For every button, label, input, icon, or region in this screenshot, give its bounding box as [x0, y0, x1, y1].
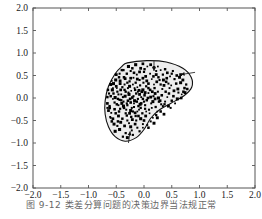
- data-point: [142, 123, 144, 125]
- data-point: [157, 96, 160, 99]
- data-point: [155, 106, 157, 108]
- data-point: [166, 96, 168, 98]
- data-point: [119, 73, 121, 75]
- data-point: [160, 69, 162, 71]
- data-point: [157, 66, 159, 68]
- data-point: [107, 89, 109, 91]
- data-point: [169, 76, 171, 78]
- data-point: [137, 115, 140, 118]
- data-point: [163, 103, 165, 105]
- data-point: [126, 114, 128, 116]
- x-axis-tick-label: 1.0: [194, 190, 206, 200]
- data-point: [138, 130, 140, 132]
- data-point: [149, 73, 151, 75]
- data-point: [151, 78, 153, 80]
- data-point: [129, 98, 132, 101]
- data-point: [177, 92, 179, 94]
- data-point: [147, 82, 150, 85]
- data-point: [143, 68, 145, 70]
- data-point: [118, 104, 120, 106]
- y-axis-tick-label: −1.5: [11, 161, 28, 171]
- data-point: [154, 98, 157, 101]
- data-point: [145, 111, 147, 113]
- data-point: [142, 82, 144, 84]
- data-point: [115, 85, 118, 88]
- data-point: [119, 89, 122, 92]
- data-point: [163, 84, 166, 87]
- data-point: [133, 72, 136, 75]
- data-point: [152, 117, 154, 119]
- data-point: [158, 100, 160, 102]
- data-point: [134, 111, 137, 114]
- data-point: [126, 102, 128, 104]
- data-point: [116, 91, 118, 93]
- data-point: [126, 119, 128, 121]
- data-point: [179, 81, 182, 84]
- data-point: [107, 109, 110, 112]
- data-point: [158, 79, 160, 81]
- data-point: [122, 136, 124, 138]
- data-point: [114, 78, 117, 81]
- data-point: [143, 94, 146, 97]
- data-point: [118, 110, 120, 112]
- data-point: [112, 92, 114, 94]
- data-point: [132, 134, 134, 136]
- data-point: [165, 81, 168, 84]
- data-point: [124, 84, 126, 86]
- data-point: [173, 89, 176, 92]
- data-point: [142, 98, 144, 100]
- data-point: [140, 107, 142, 109]
- data-point: [138, 93, 141, 96]
- data-point: [139, 117, 142, 120]
- data-point: [150, 120, 152, 122]
- data-point: [112, 82, 115, 85]
- data-point: [185, 83, 187, 85]
- data-point: [137, 86, 139, 88]
- data-point: [126, 136, 129, 139]
- data-point: [123, 76, 126, 79]
- data-point: [172, 95, 175, 98]
- data-point: [152, 95, 154, 97]
- data-point: [138, 71, 141, 74]
- x-axis-labels: −2.0−1.5−1.0−0.50.00.51.01.52.0: [24, 190, 261, 200]
- data-point: [159, 110, 162, 113]
- data-point: [143, 71, 145, 73]
- data-point: [117, 93, 119, 95]
- data-point: [149, 96, 152, 99]
- data-point: [136, 78, 139, 81]
- data-point: [139, 79, 141, 81]
- y-axis-tick-label: 0.5: [16, 71, 28, 81]
- data-point: [165, 77, 168, 80]
- data-point: [141, 112, 143, 114]
- y-axis-tick-label: 1.0: [16, 48, 28, 58]
- data-point: [119, 79, 122, 82]
- data-point: [161, 88, 163, 90]
- x-axis-tick-label: 0.0: [138, 190, 150, 200]
- data-point: [106, 102, 109, 105]
- data-point: [176, 97, 179, 100]
- data-point: [112, 87, 114, 89]
- data-point: [132, 95, 134, 97]
- data-point: [139, 67, 142, 70]
- y-axis-tick-label: 2.0: [16, 3, 28, 13]
- data-point: [119, 82, 122, 85]
- x-axis-tick-label: −1.5: [52, 190, 69, 200]
- data-point: [143, 119, 146, 122]
- data-point: [146, 124, 148, 126]
- data-point: [186, 88, 188, 90]
- data-point: [162, 79, 165, 82]
- data-point: [153, 122, 156, 125]
- data-point: [127, 92, 129, 94]
- data-point: [162, 74, 164, 76]
- data-point: [144, 115, 147, 118]
- data-point: [167, 105, 170, 108]
- data-point: [154, 92, 157, 95]
- data-point: [118, 99, 120, 101]
- y-axis-tick-label: −0.5: [11, 116, 28, 126]
- data-point: [148, 92, 150, 94]
- data-point: [160, 83, 162, 85]
- x-axis-tick-label: −2.0: [24, 190, 41, 200]
- data-point: [169, 87, 171, 89]
- data-point: [151, 107, 153, 109]
- data-point: [147, 87, 149, 89]
